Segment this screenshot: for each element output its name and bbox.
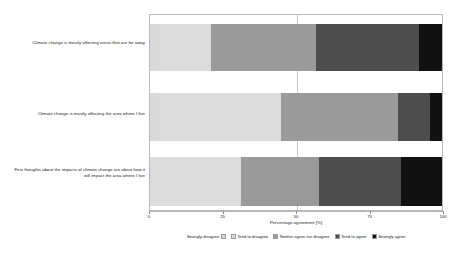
bar-segment[interactable] [150,157,241,206]
legend-item-label: Tend to disagree [237,234,268,239]
x-tick-label: 25 [220,214,225,219]
bar-segment[interactable] [159,93,282,141]
x-tick-label: 0 [148,214,150,219]
chart-legend: Strongly disagreeTend to disagreeNeither… [149,234,443,239]
legend-item[interactable]: Neither agree nor disagree [273,234,329,239]
bar-segment[interactable] [319,157,401,206]
bar-row[interactable] [150,93,442,141]
legend-swatch [221,234,226,239]
legend-swatch [273,234,278,239]
bar-row[interactable] [150,157,442,206]
bar-segment[interactable] [150,93,159,141]
chart-figure: Climate change is mostly affecting areas… [0,0,464,257]
legend-swatch [335,234,340,239]
legend-item-label: Neither agree nor disagree [280,234,330,239]
legend-item[interactable]: Tend to agree [335,234,367,239]
legend-item-label: Strongly agree [378,234,405,239]
legend-item[interactable]: Strongly agree [372,234,406,239]
bar-row[interactable] [150,24,442,71]
bar-segment[interactable] [281,93,398,141]
category-label-1: Climate change is mostly affecting the a… [10,111,145,117]
x-tick-label: 75 [367,214,372,219]
legend-swatch [372,234,377,239]
bar-segment[interactable] [419,24,442,71]
legend-item-label: Strongly disagree [187,234,220,239]
legend-swatch [231,234,236,239]
bar-segment[interactable] [211,24,316,71]
x-tick-label: 50 [294,214,299,219]
bar-segment[interactable] [159,24,212,71]
category-label-0: Climate change is mostly affecting areas… [10,40,145,46]
plot-area [149,14,443,211]
bar-segment[interactable] [241,157,320,206]
bar-segment[interactable] [316,24,418,71]
legend-item[interactable]: Tend to disagree [231,234,268,239]
bar-segment[interactable] [150,24,159,71]
legend-item-label: Tend to agree [341,234,367,239]
plot-inner [150,15,442,210]
bar-segment[interactable] [401,157,442,206]
x-tick-label: 100 [440,214,447,219]
category-label-2: First thoughts about the impacts of clim… [10,167,145,179]
bar-segment[interactable] [430,93,442,141]
bar-segment[interactable] [398,93,430,141]
x-axis-title: Percentage agreement [%] [149,220,443,225]
legend-item[interactable]: Strongly disagree [187,234,226,239]
